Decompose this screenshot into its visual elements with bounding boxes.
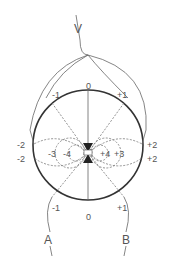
potential-diagram: V A B 0 -1 +1 -2 +2 -2 +2 -1 +1 0 -3 -4 … <box>0 0 176 257</box>
center-electrode-icon <box>83 143 93 163</box>
label-right-lower: +2 <box>147 154 157 164</box>
label-top: 0 <box>86 81 91 91</box>
label-left-lower: -2 <box>17 154 25 164</box>
label-left-upper: -2 <box>17 140 25 150</box>
label-top-right: +1 <box>117 90 127 100</box>
label-bottom-left: -1 <box>52 203 60 213</box>
terminal-v-label: V <box>74 22 82 36</box>
label-inner-left-3: -3 <box>48 149 56 159</box>
label-right-upper: +2 <box>147 140 157 150</box>
label-bottom: 0 <box>86 212 91 222</box>
terminal-b-label: B <box>122 233 130 247</box>
label-inner-left-4: -4 <box>63 149 71 159</box>
label-bottom-right: +1 <box>117 203 127 213</box>
label-inner-right-4: +4 <box>100 149 110 159</box>
label-inner-right-3: +3 <box>114 149 124 159</box>
label-top-left: -1 <box>52 90 60 100</box>
terminal-a-label: A <box>44 233 52 247</box>
